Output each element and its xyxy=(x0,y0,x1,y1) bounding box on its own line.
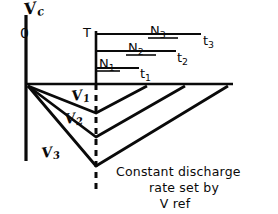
voltage-curve-v2 xyxy=(28,86,185,137)
count-label-n2: N2 xyxy=(128,41,144,56)
voltage-label-v3: V3 xyxy=(41,144,61,163)
time-label-t2: t2 xyxy=(177,51,188,66)
caption-line-3: V ref xyxy=(116,196,278,212)
discharge-rate-diagram: Vc 0 T N3 t3 N2 t2 N1 t1 V1 V2 V3 Consta… xyxy=(0,0,278,214)
diagram-caption: Constant discharge rate set by V ref xyxy=(116,164,278,211)
count-label-n1: N1 xyxy=(99,57,115,72)
origin-label: 0 xyxy=(20,26,29,40)
y-axis-label: Vc xyxy=(23,0,45,21)
time-label-t1: t1 xyxy=(140,67,151,82)
caption-line-1: Constant discharge xyxy=(116,164,278,180)
voltage-label-v2: V2 xyxy=(64,110,84,129)
count-label-n3: N3 xyxy=(150,24,166,39)
voltage-label-v1: V1 xyxy=(71,87,91,106)
caption-line-2: rate set by xyxy=(116,180,278,196)
period-label: T xyxy=(83,26,91,39)
time-label-t3: t3 xyxy=(203,34,214,49)
